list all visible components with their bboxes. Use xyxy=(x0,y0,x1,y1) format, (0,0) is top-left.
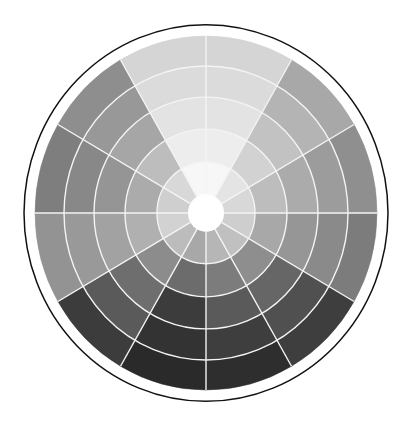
value-wheel xyxy=(0,0,409,422)
value-wheel-diagram xyxy=(0,0,409,422)
center-white-disc xyxy=(188,194,224,231)
